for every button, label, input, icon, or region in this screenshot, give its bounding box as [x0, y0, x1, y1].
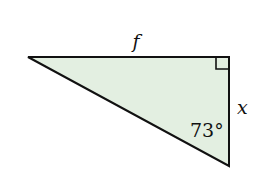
side-label-x: x — [237, 96, 248, 118]
side-label-f: f — [130, 30, 142, 52]
triangle-diagram: f x 73° — [0, 0, 265, 175]
angle-label: 73° — [190, 119, 224, 141]
triangle-shape — [28, 57, 229, 166]
